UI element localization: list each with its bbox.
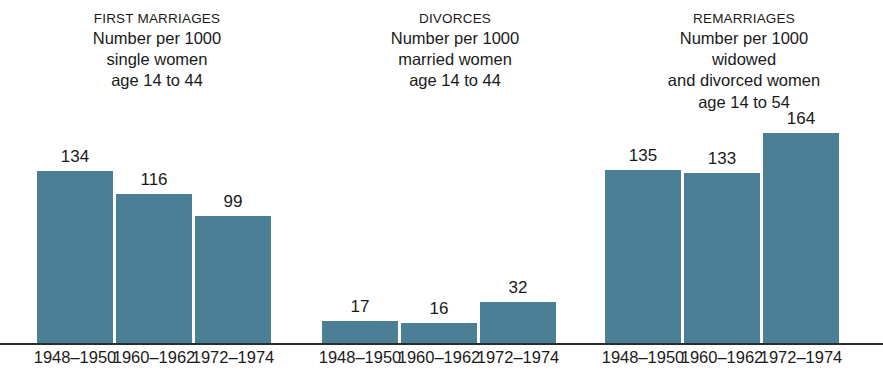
x-tick-label-fm-1948: 1948–1950 xyxy=(33,348,117,367)
bar-value-label-dv-1948: 17 xyxy=(322,297,398,317)
x-tick-label-rm-1972: 1972–1974 xyxy=(759,348,843,367)
bar-value-label-fm-1972: 99 xyxy=(195,192,271,212)
bar-dv-1972 xyxy=(480,302,556,343)
bar-value-label-dv-1960: 16 xyxy=(401,299,477,319)
bar-dv-1960 xyxy=(401,323,477,343)
bar-value-label-fm-1960: 116 xyxy=(116,170,192,190)
bar-fm-1960 xyxy=(116,194,192,343)
bar-rm-1948 xyxy=(605,170,681,343)
plot-area: 1341948–19501161960–1962991972–197417194… xyxy=(0,0,883,377)
x-tick-label-fm-1972: 1972–1974 xyxy=(191,348,275,367)
x-axis-baseline xyxy=(0,343,883,345)
bar-chart: FIRST MARRIAGES Number per 1000 single w… xyxy=(0,0,883,377)
bar-value-label-rm-1960: 133 xyxy=(684,149,760,169)
x-tick-label-rm-1948: 1948–1950 xyxy=(601,348,685,367)
bar-value-label-fm-1948: 134 xyxy=(37,147,113,167)
x-tick-label-rm-1960: 1960–1962 xyxy=(680,348,764,367)
bar-value-label-dv-1972: 32 xyxy=(480,278,556,298)
bar-fm-1948 xyxy=(37,171,113,343)
bar-fm-1972 xyxy=(195,216,271,343)
bar-rm-1972 xyxy=(763,133,839,343)
bar-rm-1960 xyxy=(684,173,760,343)
x-tick-label-fm-1960: 1960–1962 xyxy=(112,348,196,367)
x-tick-label-dv-1948: 1948–1950 xyxy=(318,348,402,367)
bar-value-label-rm-1972: 164 xyxy=(763,109,839,129)
bar-dv-1948 xyxy=(322,321,398,343)
x-tick-label-dv-1972: 1972–1974 xyxy=(476,348,560,367)
x-tick-label-dv-1960: 1960–1962 xyxy=(397,348,481,367)
bar-value-label-rm-1948: 135 xyxy=(605,146,681,166)
